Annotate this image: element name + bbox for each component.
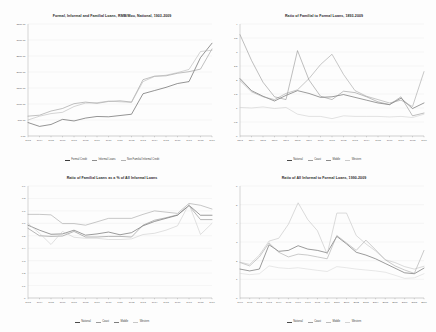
legend-item[interactable]: Middle	[326, 321, 340, 324]
x-tick-label: 1916	[175, 139, 181, 142]
legend-item[interactable]: National	[287, 159, 303, 162]
legend-item[interactable]: Western	[345, 321, 361, 324]
x-tick-label: 1910	[106, 139, 112, 142]
y-tick-label: 500.00	[18, 119, 26, 122]
legend-item[interactable]: National	[287, 321, 303, 324]
series-line-western	[240, 266, 424, 279]
legend-label: Formal Credit	[71, 159, 87, 162]
y-tick-label: 0.2	[22, 272, 26, 275]
y-tick-label: 1.5	[234, 93, 238, 96]
y-tick-label: 1000.00	[16, 103, 26, 106]
legend-item[interactable]: Coast	[308, 159, 321, 162]
x-tick-label: 2005	[382, 301, 388, 304]
x-tick-label: 1905	[48, 301, 54, 304]
y-tick-label: 4	[236, 23, 238, 26]
x-tick-label: 2006	[392, 301, 398, 304]
x-tick-label: 1995	[286, 301, 292, 304]
chart-panel-ratio-familial-to-formal: Ratio of Familial to Formal Loans, 1893-…	[218, 4, 430, 166]
chart-legend: NationalCoastMiddleWestern	[6, 321, 218, 324]
series-line-middle	[240, 35, 424, 116]
legend-label: National	[81, 321, 91, 324]
legend-swatch-icon	[326, 160, 331, 161]
series-line-national	[240, 79, 424, 109]
legend-label: Middle	[333, 321, 341, 324]
plot-area: 0123456199019911992199319941995199619971…	[218, 166, 430, 328]
y-tick-label: 6	[236, 185, 238, 188]
plot-area: 00.511.522.533.5418931894189518961897189…	[218, 4, 430, 166]
legend-swatch-icon	[92, 160, 97, 161]
legend-item[interactable]: Informal Loans	[92, 159, 116, 162]
x-tick-label: 1914	[152, 139, 158, 142]
y-tick-label: 0.5	[22, 235, 26, 238]
x-tick-label: 1993	[266, 301, 272, 304]
x-tick-label: 1905	[48, 139, 54, 142]
x-tick-label: 1907	[71, 139, 77, 142]
x-tick-label: 1907	[71, 301, 77, 304]
x-tick-label: 2007	[402, 301, 408, 304]
x-tick-label: 1911	[117, 139, 123, 142]
legend-item[interactable]: Western	[133, 321, 149, 324]
x-tick-label: 1917	[186, 139, 192, 142]
x-tick-label: 2009	[421, 301, 427, 304]
y-tick-label: 2.5	[234, 65, 238, 68]
figure-sheet: Formal, Informal and Familial Loans, RMB…	[0, 0, 436, 332]
x-tick-label: 2001	[344, 301, 350, 304]
legend-item[interactable]: Middle	[114, 321, 128, 324]
series-line-western	[240, 107, 424, 119]
x-tick-label: 1908	[410, 139, 416, 142]
legend-label: Middle	[333, 159, 341, 162]
x-tick-label: 1994	[276, 301, 282, 304]
x-tick-label: 1908	[83, 301, 89, 304]
x-tick-label: 1902	[341, 139, 347, 142]
legend-item[interactable]: Coast	[96, 321, 109, 324]
x-tick-label: 1907	[398, 139, 404, 142]
legend-item[interactable]: Western	[345, 159, 361, 162]
y-tick-label: 3.5	[234, 37, 238, 40]
y-tick-label: 2500.00	[16, 55, 26, 58]
x-tick-label: 1904	[364, 139, 370, 142]
x-tick-label: 1917	[186, 301, 192, 304]
legend-swatch-icon	[75, 322, 80, 323]
x-tick-label: 2000	[334, 301, 340, 304]
x-tick-label: 1913	[140, 139, 146, 142]
x-tick-label: 1998	[315, 301, 321, 304]
x-tick-label: 1991	[247, 301, 253, 304]
x-tick-label: 1906	[60, 139, 66, 142]
legend-item[interactable]: Formal Credit	[65, 159, 87, 162]
x-tick-label: 1919	[209, 139, 215, 142]
legend-swatch-icon	[345, 322, 350, 323]
y-tick-label: 0.4	[22, 247, 26, 250]
y-tick-label: 4	[236, 222, 238, 225]
y-tick-label: 0	[236, 135, 238, 138]
legend-swatch-icon	[133, 322, 138, 323]
y-tick-label: 0.7	[22, 210, 26, 213]
legend-swatch-icon	[287, 160, 292, 161]
legend-swatch-icon	[308, 160, 313, 161]
legend-item[interactable]: Middle	[326, 159, 340, 162]
x-tick-label: 1906	[387, 139, 393, 142]
x-tick-label: 1893	[237, 139, 243, 142]
x-tick-label: 1906	[60, 301, 66, 304]
x-tick-label: 1903	[25, 301, 31, 304]
series-line-coast	[240, 235, 424, 273]
x-tick-label: 1895	[260, 139, 266, 142]
x-tick-label: 1894	[249, 139, 255, 142]
x-tick-label: 1903	[25, 139, 31, 142]
x-tick-label: 1908	[83, 139, 89, 142]
series-line-middle	[240, 203, 424, 269]
series-line-western	[28, 204, 212, 244]
legend-item[interactable]: National	[75, 321, 91, 324]
y-tick-label: 3	[236, 51, 238, 54]
legend-item[interactable]: Non Familial Informal Credit	[121, 159, 160, 162]
chart-svg-1: 00.511.522.533.5418931894189518961897189…	[218, 4, 430, 166]
legend-item[interactable]: Coast	[308, 321, 321, 324]
chart-svg-2: 00.10.20.30.40.50.60.70.80.9190319041905…	[6, 166, 218, 328]
legend-swatch-icon	[345, 160, 350, 161]
y-tick-label: 1	[236, 278, 238, 281]
x-tick-label: 1997	[305, 301, 311, 304]
x-tick-label: 1990	[237, 301, 243, 304]
y-tick-label: 0.00	[21, 135, 26, 138]
y-tick-label: 0.9	[22, 185, 26, 188]
chart-svg-3: 0123456199019911992199319941995199619971…	[218, 166, 430, 328]
chart-panel-formal-informal-familial-loans: Formal, Informal and Familial Loans, RMB…	[6, 4, 218, 166]
